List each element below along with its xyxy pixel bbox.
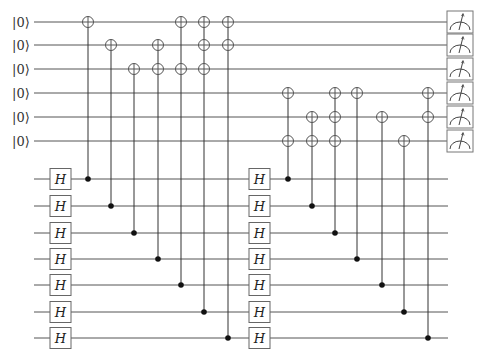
hadamard-gate: H <box>50 302 71 323</box>
gate-label: H <box>253 226 266 241</box>
cnot-target-icon <box>153 64 164 75</box>
cnot-target-icon <box>330 112 341 123</box>
control-dot-icon <box>285 176 291 182</box>
cnot-target-icon <box>399 136 410 147</box>
control-dot-icon <box>309 203 315 209</box>
meter-icon <box>447 58 473 80</box>
cnot-target-icon <box>377 112 388 123</box>
cnot-target-icon <box>423 112 434 123</box>
control-dot-icon <box>354 256 360 262</box>
hadamard-gate: H <box>50 275 71 296</box>
ket-zero-label: |0⟩ <box>12 62 30 77</box>
control-dot-icon <box>131 230 137 236</box>
control-dot-icon <box>401 309 407 315</box>
cnot-target-icon <box>330 88 341 99</box>
gate-label: H <box>253 199 266 214</box>
ket-labels-layer: |0⟩|0⟩|0⟩|0⟩|0⟩|0⟩ <box>12 15 30 149</box>
control-dot-icon <box>178 282 184 288</box>
gate-label: H <box>253 278 266 293</box>
cnot-target-icon <box>129 64 140 75</box>
control-dot-icon <box>225 335 231 341</box>
meter-icon <box>447 11 473 33</box>
quantum-circuit-diagram: HHHHHHHHHHHHHH |0⟩|0⟩|0⟩|0⟩|0⟩|0⟩ <box>0 0 487 363</box>
hadamard-gate: H <box>50 249 71 270</box>
cnot-target-icon <box>307 112 318 123</box>
control-dot-icon <box>332 230 338 236</box>
cnot-target-icon <box>283 88 294 99</box>
ket-zero-label: |0⟩ <box>12 15 30 30</box>
gates-layer: HHHHHHHHHHHHHH <box>50 17 434 349</box>
cnot-target-icon <box>106 40 117 51</box>
hadamard-gate: H <box>50 328 71 349</box>
control-dot-icon <box>155 256 161 262</box>
cnot-target-icon <box>153 40 164 51</box>
hadamard-gate: H <box>249 169 270 190</box>
hadamard-gate: H <box>50 223 71 244</box>
gate-label: H <box>54 278 67 293</box>
hadamard-gate: H <box>249 328 270 349</box>
cnot-target-icon <box>223 40 234 51</box>
gate-label: H <box>54 252 67 267</box>
control-dot-icon <box>108 203 114 209</box>
cnot-target-icon <box>223 17 234 28</box>
cnot-target-icon <box>283 136 294 147</box>
hadamard-gate: H <box>249 275 270 296</box>
hadamard-gate: H <box>50 169 71 190</box>
gate-label: H <box>54 199 67 214</box>
meter-icon <box>447 106 473 128</box>
gate-label: H <box>54 172 67 187</box>
cnot-target-icon <box>199 64 210 75</box>
hadamard-gate: H <box>249 302 270 323</box>
cnot-target-icon <box>423 88 434 99</box>
control-dot-icon <box>85 176 91 182</box>
gate-label: H <box>253 172 266 187</box>
cnot-target-icon <box>176 17 187 28</box>
hadamard-gate: H <box>50 196 71 217</box>
hadamard-gate: H <box>249 249 270 270</box>
meter-icon <box>447 34 473 56</box>
wires-layer <box>34 22 448 338</box>
hadamard-gate: H <box>249 223 270 244</box>
cnot-target-icon <box>199 40 210 51</box>
measurements-layer <box>447 11 473 152</box>
gate-label: H <box>54 305 67 320</box>
ket-zero-label: |0⟩ <box>12 134 30 149</box>
control-dot-icon <box>425 335 431 341</box>
gate-label: H <box>253 252 266 267</box>
cnot-target-icon <box>307 136 318 147</box>
gate-label: H <box>54 331 67 346</box>
cnot-target-icon <box>83 17 94 28</box>
cnot-target-icon <box>199 17 210 28</box>
cnot-target-icon <box>176 64 187 75</box>
ket-zero-label: |0⟩ <box>12 86 30 101</box>
meter-icon <box>447 82 473 104</box>
meter-icon <box>447 130 473 152</box>
gate-label: H <box>253 305 266 320</box>
cnot-target-icon <box>352 88 363 99</box>
ket-zero-label: |0⟩ <box>12 110 30 125</box>
control-dot-icon <box>201 309 207 315</box>
gate-label: H <box>253 331 266 346</box>
hadamard-gate: H <box>249 196 270 217</box>
control-dot-icon <box>379 282 385 288</box>
cnot-target-icon <box>330 136 341 147</box>
ket-zero-label: |0⟩ <box>12 38 30 53</box>
gate-label: H <box>54 226 67 241</box>
